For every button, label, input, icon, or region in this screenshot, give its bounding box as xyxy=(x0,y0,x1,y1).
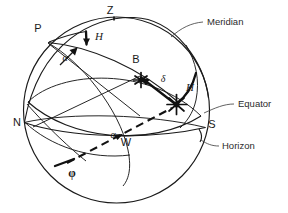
star-marker-b xyxy=(134,73,149,88)
label-alpha-top: α xyxy=(62,52,68,63)
label-south: S xyxy=(208,118,215,130)
latitude-tick-segment xyxy=(55,159,74,166)
label-zenith: Z xyxy=(107,4,114,16)
label-west: W xyxy=(121,136,132,148)
celestial-sphere-figure: Z P B N S W H H α α δ φ Meridian Equator… xyxy=(0,0,288,213)
label-hour-angle-right: H xyxy=(185,81,195,93)
latitude-arc xyxy=(27,104,86,161)
callout-equator: Equator xyxy=(238,98,271,109)
hour-angle-arrowhead-top xyxy=(83,39,90,46)
equator-callout-leader xyxy=(204,104,234,113)
horizon-hook xyxy=(199,129,201,142)
callout-meridian: Meridian xyxy=(207,16,243,27)
chord-b-to-left xyxy=(33,76,140,127)
diagram-canvas: Z P B N S W H H α α δ φ Meridian Equator… xyxy=(0,0,288,213)
label-latitude: φ xyxy=(68,166,76,180)
label-pole: P xyxy=(34,22,41,34)
equator-back-arc xyxy=(28,78,201,116)
label-declination: δ xyxy=(161,73,166,84)
meridian-arc-upper xyxy=(25,17,209,122)
callout-horizon: Horizon xyxy=(222,140,255,151)
star-marker-celestial-object xyxy=(167,95,187,115)
label-point-b: B xyxy=(132,53,139,65)
label-hour-angle-top: H xyxy=(94,30,104,42)
label-alpha-bottom: α xyxy=(110,129,116,140)
label-north: N xyxy=(13,116,21,128)
